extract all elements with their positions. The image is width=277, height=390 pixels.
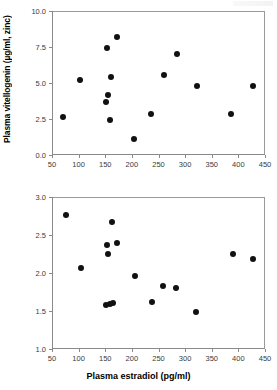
x-tick-label: 450 <box>259 354 272 363</box>
data-point <box>173 285 179 291</box>
x-tick <box>79 349 80 352</box>
data-point <box>104 242 110 248</box>
x-tick <box>52 349 53 352</box>
data-point <box>193 309 199 315</box>
chart-panel-vitellogenin: Plasma vitellogenin (µg/ml, zinc) 0.02.5… <box>0 0 277 195</box>
y-tick <box>49 83 52 84</box>
y-tick-label: 1.0 <box>0 345 46 354</box>
y-axis-top <box>52 11 53 155</box>
x-tick-label: 300 <box>179 354 192 363</box>
x-tick <box>185 155 186 158</box>
y-tick-label: 2.0 <box>0 269 46 278</box>
x-tick-label: 150 <box>99 160 112 169</box>
x-tick-label: 200 <box>126 160 139 169</box>
data-point <box>250 83 256 89</box>
x-tick <box>238 349 239 352</box>
x-tick <box>105 155 106 158</box>
data-point <box>230 251 236 257</box>
y-tick <box>49 47 52 48</box>
y-axis-bottom <box>52 197 53 349</box>
data-point <box>149 299 155 305</box>
x-tick <box>79 155 80 158</box>
plot-area-top <box>52 11 265 155</box>
y-tick <box>49 119 52 120</box>
x-tick-label: 400 <box>232 160 245 169</box>
x-tick-label: 450 <box>259 160 272 169</box>
x-tick-label: 50 <box>48 354 56 363</box>
data-point <box>114 34 120 40</box>
data-point <box>228 111 234 117</box>
y-tick-label: 5.0 <box>0 79 46 88</box>
data-point <box>250 256 256 262</box>
data-point <box>114 240 120 246</box>
x-tick <box>265 349 266 352</box>
y-tick-label: 1.5 <box>0 307 46 316</box>
x-tick <box>185 349 186 352</box>
x-tick <box>238 155 239 158</box>
x-tick-label: 150 <box>99 354 112 363</box>
x-axis-label: Plasma estradiol (pg/ml) <box>0 371 277 381</box>
y-tick-label: 3.0 <box>0 193 46 202</box>
y-tick <box>49 235 52 236</box>
data-point <box>105 92 111 98</box>
y-tick <box>49 197 52 198</box>
data-point <box>107 117 113 123</box>
x-tick <box>212 155 213 158</box>
x-tick-label: 350 <box>205 160 218 169</box>
x-tick <box>212 349 213 352</box>
data-point <box>104 45 110 51</box>
data-point <box>109 219 115 225</box>
x-tick <box>132 349 133 352</box>
x-tick-label: 100 <box>72 354 85 363</box>
x-tick-label: 250 <box>152 160 165 169</box>
data-point <box>160 283 166 289</box>
x-tick <box>159 155 160 158</box>
data-point <box>161 72 167 78</box>
data-point <box>105 251 111 257</box>
x-tick-label: 100 <box>72 160 85 169</box>
data-point <box>131 136 137 142</box>
x-tick-label: 300 <box>179 160 192 169</box>
data-point <box>148 111 154 117</box>
x-tick-label: 350 <box>205 354 218 363</box>
x-tick-label: 50 <box>48 160 56 169</box>
y-tick-label: 2.5 <box>0 115 46 124</box>
x-tick-label: 200 <box>126 354 139 363</box>
data-point <box>174 51 180 57</box>
x-tick-label: 250 <box>152 354 165 363</box>
x-tick <box>159 349 160 352</box>
y-tick <box>49 273 52 274</box>
y-tick-label: 0.0 <box>0 151 46 160</box>
x-tick <box>132 155 133 158</box>
y-axis-label-bottom: Total mass of yolky follicles (g) <box>2 386 12 390</box>
x-tick-label: 400 <box>232 354 245 363</box>
data-point <box>103 99 109 105</box>
data-point <box>77 77 83 83</box>
plot-area-bottom <box>52 197 265 349</box>
data-point <box>110 300 116 306</box>
data-point <box>132 273 138 279</box>
y-tick <box>49 11 52 12</box>
chart-panel-follicles: Total mass of yolky follicles (g) Plasma… <box>0 190 277 390</box>
data-point <box>60 114 66 120</box>
figure: Plasma vitellogenin (µg/ml, zinc) 0.02.5… <box>0 0 277 390</box>
data-point <box>63 212 69 218</box>
y-tick <box>49 311 52 312</box>
data-point <box>108 74 114 80</box>
data-point <box>194 83 200 89</box>
y-tick-label: 10.0 <box>0 7 46 16</box>
x-tick <box>265 155 266 158</box>
x-tick <box>52 155 53 158</box>
y-tick-label: 2.5 <box>0 231 46 240</box>
plot-frame-bottom <box>52 197 265 349</box>
data-point <box>78 265 84 271</box>
plot-frame-top <box>52 11 265 155</box>
y-tick-label: 7.5 <box>0 43 46 52</box>
x-tick <box>105 349 106 352</box>
